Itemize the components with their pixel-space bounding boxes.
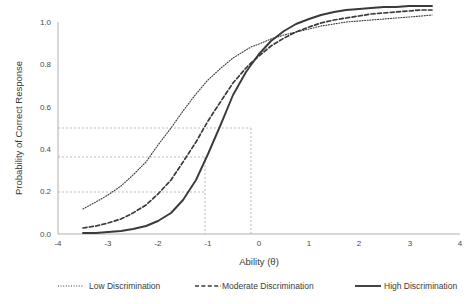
x-tick-label: 0 — [257, 239, 262, 248]
x-tick-label: 4 — [458, 239, 463, 248]
x-tick-labels: -4 -3 -2 -1 0 1 2 3 4 — [54, 239, 462, 248]
curve-high-discrimination — [83, 6, 432, 233]
y-tick-label: 1.0 — [40, 18, 52, 27]
x-axis-title: Ability (θ) — [239, 256, 279, 267]
legend-label: Low Discrimination — [89, 281, 161, 291]
curve-moderate-discrimination — [83, 10, 432, 228]
legend-item-moderate-discrimination[interactable]: Moderate Discrimination — [195, 281, 314, 291]
y-axis-title: Probability of Correct Response — [13, 61, 24, 195]
chart-figure: Probability of Correct Response 0.0 0.2 … — [0, 0, 472, 304]
legend-item-high-discrimination[interactable]: High Discrimination — [355, 281, 457, 291]
y-tick-labels: 0.0 0.2 0.4 0.6 0.8 1.0 — [40, 18, 52, 239]
x-tick-label: -2 — [154, 239, 162, 248]
y-tick-label: 0.6 — [40, 103, 52, 112]
chart-legend: Low Discrimination Moderate Discriminati… — [58, 281, 457, 291]
x-tick-label: 2 — [357, 239, 362, 248]
y-tick-label: 0.4 — [40, 145, 52, 154]
x-tick-label: -1 — [204, 239, 212, 248]
y-tick-label: 0.0 — [40, 230, 52, 239]
y-tick-label: 0.8 — [40, 60, 52, 69]
x-tick-label: -4 — [54, 239, 62, 248]
icc-chart-svg: Probability of Correct Response 0.0 0.2 … — [0, 0, 472, 304]
y-tick-label: 0.2 — [40, 187, 52, 196]
legend-label: Moderate Discrimination — [222, 281, 314, 291]
x-tick-label: -3 — [104, 239, 112, 248]
x-tick-label: 3 — [408, 239, 413, 248]
x-tick-label: 1 — [307, 239, 312, 248]
legend-label: High Discrimination — [384, 281, 457, 291]
curve-low-discrimination — [83, 15, 432, 209]
horizontal-reference-lines — [58, 128, 251, 192]
legend-item-low-discrimination[interactable]: Low Discrimination — [58, 281, 161, 291]
